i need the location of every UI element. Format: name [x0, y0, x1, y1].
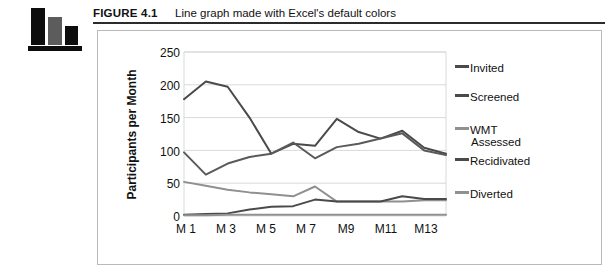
- legend-item-invited: Invited: [455, 58, 504, 73]
- legend-label-wmt-assessed-second-line: Assessed: [471, 136, 521, 148]
- x-tick-label: M11: [366, 222, 406, 236]
- legend-swatch-recidivated: [455, 158, 469, 161]
- legend-swatch-screened: [455, 94, 469, 97]
- legend-item-screened: Screened: [455, 87, 519, 102]
- legend-swatch-invited: [455, 65, 469, 68]
- bar-chart-icon: [22, 4, 86, 52]
- x-tick-label: M13: [406, 222, 446, 236]
- y-tick-label: 200: [146, 80, 180, 92]
- legend-label-screened: Screened: [470, 91, 519, 103]
- x-tick-label: M9: [326, 222, 366, 236]
- legend-item-recidivated: Recidivated: [455, 151, 530, 166]
- legend-label-diverted: Diverted: [470, 188, 513, 200]
- y-tick-label: 250: [146, 47, 180, 59]
- x-tick-label: M 3: [206, 222, 246, 236]
- y-tick-label: 50: [146, 178, 180, 190]
- legend-item-wmt-assessed: WMT: [455, 120, 497, 135]
- bar-chart-icon-bar-1: [31, 8, 45, 45]
- x-tick-label: M 1: [166, 222, 206, 236]
- bar-chart-icon-baseline: [28, 46, 82, 51]
- bar-chart-icon-bar-2: [48, 17, 62, 45]
- legend-swatch-wmt-assessed: [455, 127, 469, 130]
- legend-swatch-diverted: [455, 191, 469, 194]
- y-tick-label: 150: [146, 113, 180, 125]
- legend-label-wmt: WMT: [470, 124, 497, 136]
- chart-legend: Invited Screened WMT Assessed Recidivate…: [455, 58, 580, 198]
- y-tick-label: 100: [146, 146, 180, 158]
- x-tick-label: M 5: [246, 222, 286, 236]
- x-axis-ticks: M 1 M 3 M 5 M 7 M9 M11 M13: [0, 222, 611, 240]
- legend-label-invited: Invited: [470, 62, 504, 74]
- bar-chart-icon-bar-3: [65, 26, 78, 45]
- figure-caption: Line graph made with Excel's default col…: [175, 7, 396, 19]
- x-tick-label: M 7: [286, 222, 326, 236]
- legend-label-recidivated: Recidivated: [470, 155, 530, 167]
- figure-page: FIGURE 4.1 Line graph made with Excel's …: [0, 0, 611, 272]
- legend-item-diverted: Diverted: [455, 184, 513, 199]
